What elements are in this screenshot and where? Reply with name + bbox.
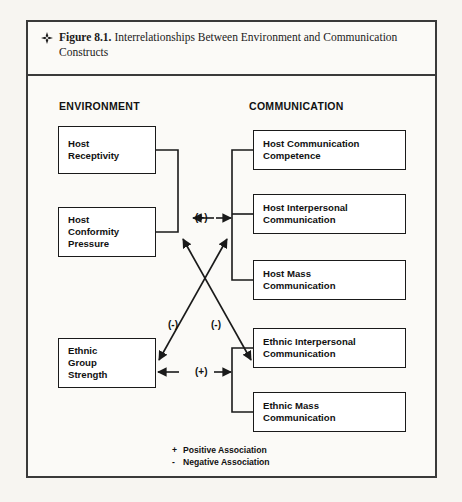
legend: + Positive Association - Negative Associ… <box>172 444 270 468</box>
legend-row-negative: - Negative Association <box>172 456 270 468</box>
node-ethnic-group-strength[interactable]: Ethnic Group Strength <box>58 338 156 388</box>
node-host-interpersonal-communication[interactable]: Host Interpersonal Communication <box>253 194 406 234</box>
node-host-communication-competence[interactable]: Host Communication Competence <box>253 130 406 170</box>
legend-negative-label: Negative Association <box>183 456 270 468</box>
diamond-bullet-icon <box>40 31 54 45</box>
column-heading-communication: COMMUNICATION <box>249 100 344 112</box>
column-heading-environment: ENVIRONMENT <box>59 100 140 112</box>
node-ethnic-interpersonal-communication[interactable]: Ethnic Interpersonal Communication <box>253 328 406 368</box>
figure-caption: Figure 8.1. Interrelationships Between E… <box>40 30 421 60</box>
page-background: Figure 8.1. Interrelationships Between E… <box>0 0 462 502</box>
legend-positive-symbol: + <box>172 444 183 456</box>
figure-number: Figure 8.1. <box>59 31 112 43</box>
legend-row-positive: + Positive Association <box>172 444 270 456</box>
sign-negative-left: (-) <box>168 319 178 330</box>
figure-frame: Figure 8.1. Interrelationships Between E… <box>26 20 437 478</box>
legend-negative-symbol: - <box>172 456 183 468</box>
diagram-canvas: ENVIRONMENT COMMUNICATION Host Receptivi… <box>28 76 435 476</box>
node-ethnic-mass-communication[interactable]: Ethnic Mass Communication <box>253 392 406 432</box>
legend-positive-label: Positive Association <box>183 444 267 456</box>
figure-caption-bar: Figure 8.1. Interrelationships Between E… <box>28 22 435 76</box>
node-host-mass-communication[interactable]: Host Mass Communication <box>253 260 406 300</box>
sign-positive-ethnic: (+) <box>195 366 208 377</box>
sign-positive-host: (+) <box>195 212 208 223</box>
node-host-conformity-pressure[interactable]: Host Conformity Pressure <box>58 207 156 257</box>
sign-negative-right: (-) <box>211 319 221 330</box>
node-host-receptivity[interactable]: Host Receptivity <box>58 126 156 174</box>
